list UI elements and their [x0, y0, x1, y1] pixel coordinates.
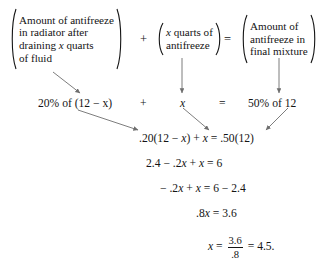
group2-line-1: x quarts of — [166, 26, 213, 39]
fraction-denominator: .8 — [228, 249, 243, 260]
right-paren-group1 — [116, 8, 125, 70]
variable-x: x — [59, 39, 64, 51]
group3-line-2: antifreeze in — [250, 33, 308, 46]
arrow-term1-to-step1 — [78, 110, 138, 130]
solution-step-4: .8x = 3.6 — [196, 207, 237, 220]
final-equals-2: = — [248, 240, 255, 253]
final-equals-1: = — [216, 240, 223, 253]
word-group-left-lines: Amount of antifreeze in radiator after d… — [17, 8, 116, 70]
word-group-left: Amount of antifreeze in radiator after d… — [8, 8, 125, 70]
arrow-group1-to-term1 — [53, 72, 80, 93]
translation-operator-plus: + — [140, 97, 147, 110]
group1-line-3: draining x quarts — [19, 39, 114, 52]
group3-line-3: final mixture — [250, 45, 308, 58]
word-group-middle: x quarts of antifreeze — [155, 22, 224, 56]
solution-final-step: x = 3.6 .8 = 4.5. — [208, 235, 275, 260]
word-operator-equals: = — [224, 32, 231, 47]
word-group-right: Amount of antifreeze in final mixture — [239, 14, 319, 64]
translation-term-3: 50% of 12 — [248, 97, 296, 110]
left-paren-group1 — [8, 8, 17, 70]
arrow-term2-to-step1 — [183, 108, 209, 130]
group2-line-2: antifreeze — [166, 39, 213, 52]
fraction-3point6-over-point8: 3.6 .8 — [228, 235, 243, 260]
final-lhs: x — [208, 240, 213, 253]
group3-line-1: Amount of — [250, 20, 308, 33]
group1-line-4: of fluid — [19, 52, 114, 65]
word-group-right-lines: Amount of antifreeze in final mixture — [248, 14, 310, 64]
left-paren-group2 — [155, 22, 164, 56]
solution-step-2: 2.4 − .2x + x = 6 — [146, 157, 222, 170]
variable-x: x — [196, 182, 201, 195]
variable-x: x — [203, 132, 208, 145]
word-group-middle-lines: x quarts of antifreeze — [164, 22, 215, 56]
fraction-bar — [228, 247, 243, 248]
solution-step-3: − .2x + x = 6 − 2.4 — [160, 182, 246, 195]
translation-term-1: 20% of (12 − x) — [38, 97, 112, 110]
variable-x: x — [181, 132, 186, 145]
variable-x: x — [166, 26, 171, 38]
left-paren-group3 — [239, 14, 248, 64]
variable-x: x — [182, 157, 187, 170]
group1-line-1: Amount of antifreeze — [19, 14, 114, 27]
fraction-numerator: 3.6 — [228, 235, 243, 246]
word-operator-plus: + — [140, 32, 147, 47]
solution-step-1: .20(12 − x) + x = .50(12) — [139, 132, 254, 145]
translation-term-2: x — [180, 97, 185, 110]
group1-line-2: in radiator after — [19, 26, 114, 39]
worked-example-figure: Amount of antifreeze in radiator after d… — [0, 0, 330, 266]
arrow-term3-to-step1 — [266, 108, 288, 130]
variable-x: x — [205, 207, 210, 220]
translation-operator-equals: = — [219, 97, 226, 110]
variable-x: x — [178, 182, 183, 195]
variable-x: x — [199, 157, 204, 170]
final-result: 4.5. — [257, 240, 274, 253]
right-paren-group2 — [215, 22, 224, 56]
right-paren-group3 — [310, 14, 319, 64]
